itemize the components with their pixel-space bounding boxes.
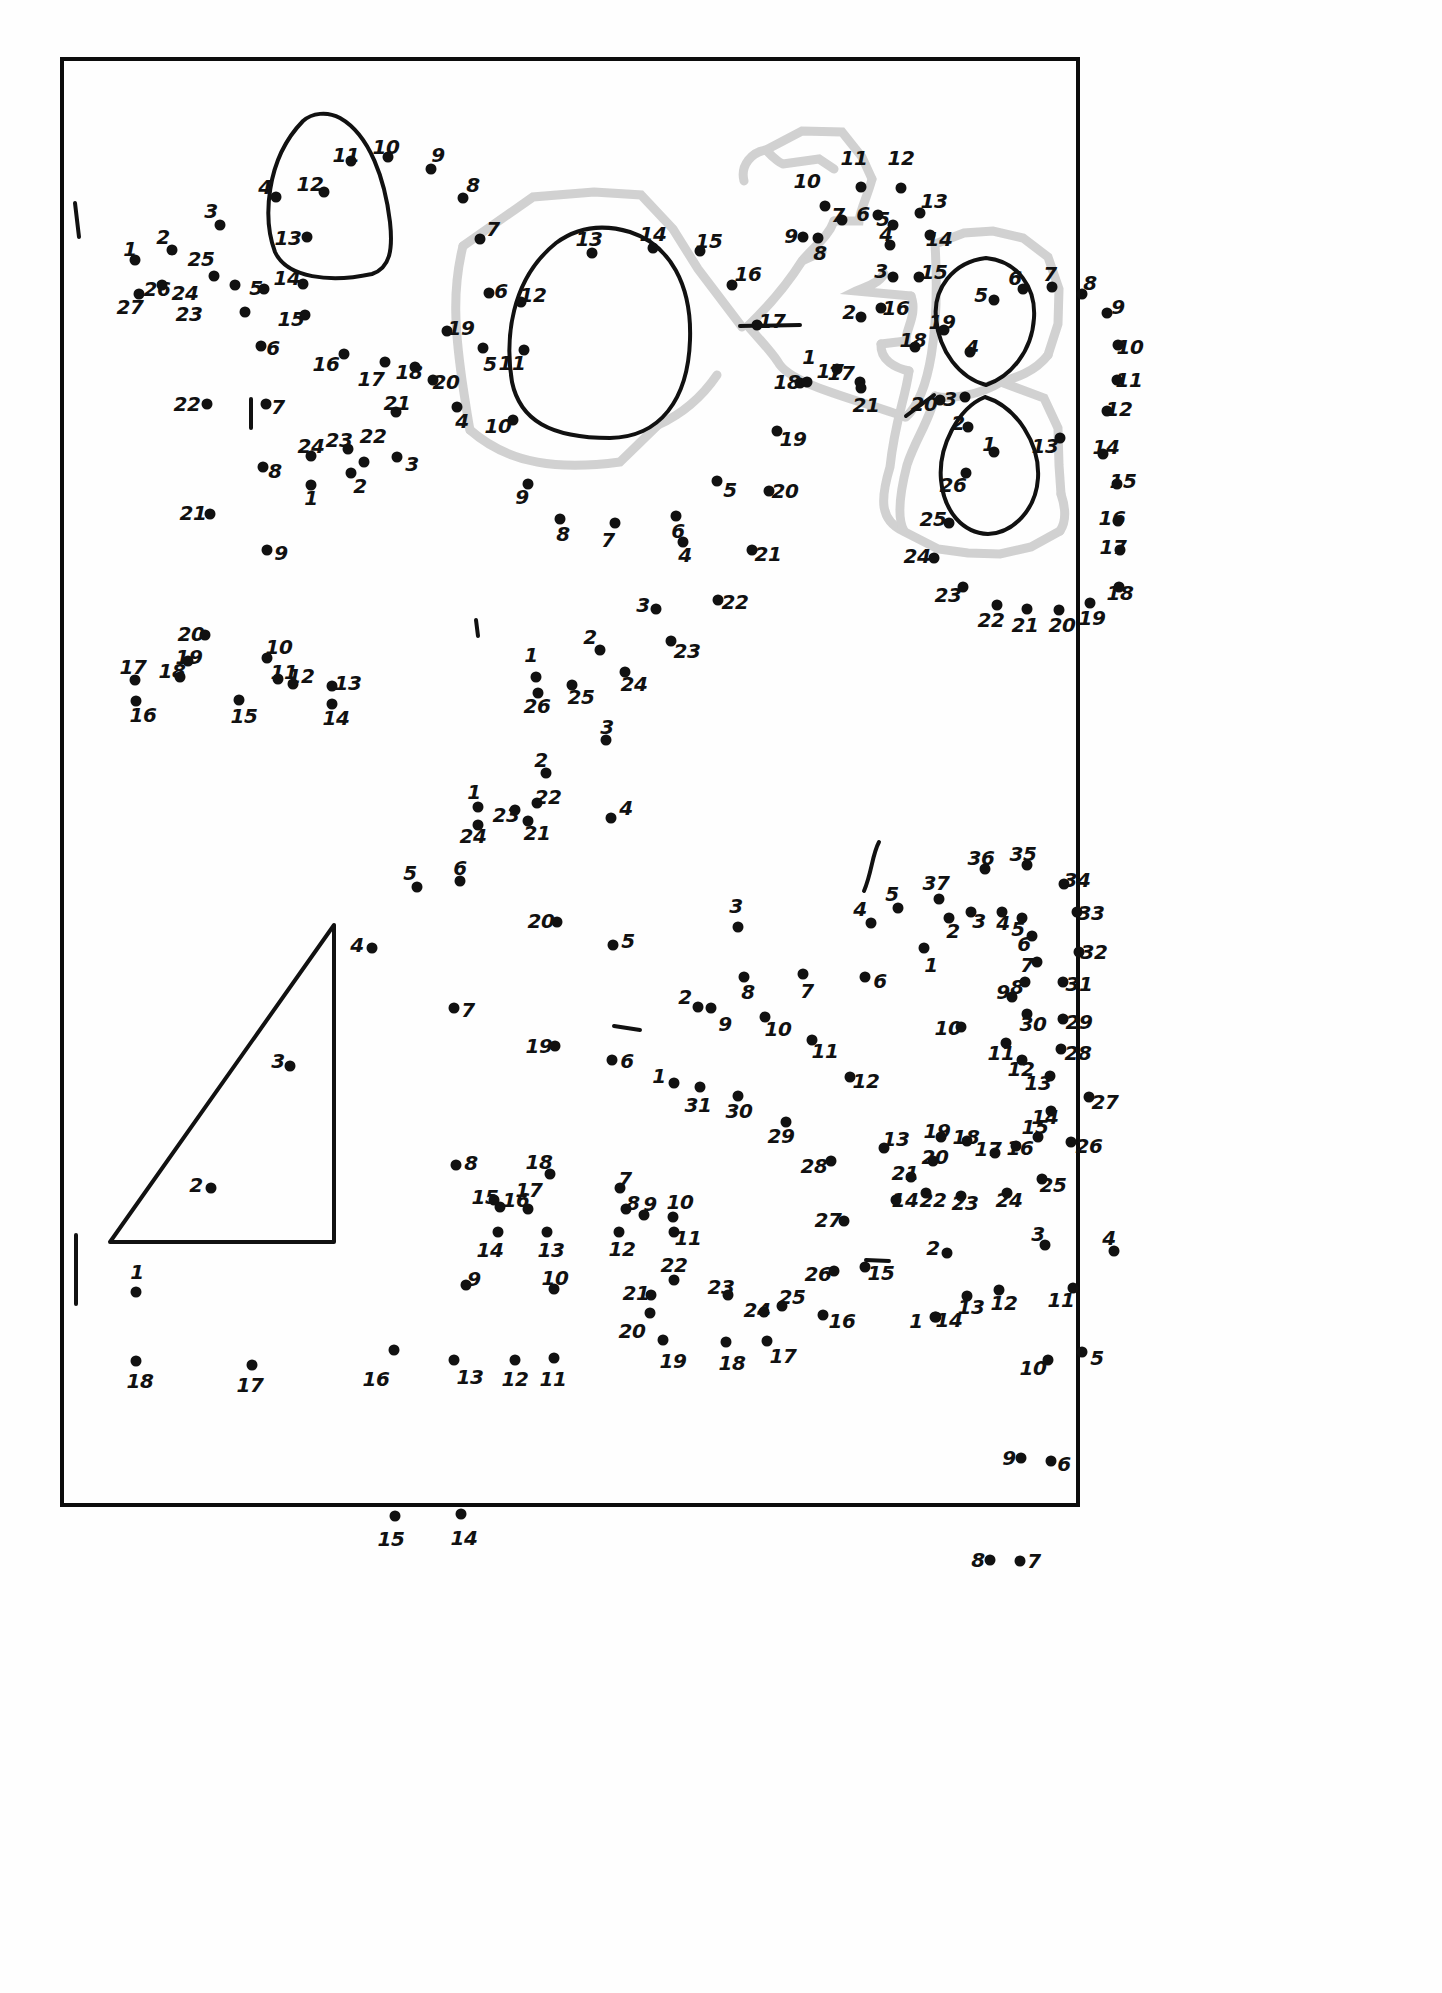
puzzle-dot-label: 17 — [817, 361, 844, 381]
puzzle-dot-label: 12 — [888, 148, 915, 168]
puzzle-dot-label: 23 — [952, 1193, 979, 1213]
puzzle-dot-label: 10 — [794, 171, 821, 191]
puzzle-dot-label: 15 — [696, 231, 723, 251]
puzzle-dot-label: 14 — [477, 1240, 504, 1260]
puzzle-dot — [712, 476, 723, 487]
puzzle-dot — [392, 452, 403, 463]
puzzle-dot — [258, 462, 269, 473]
puzzle-dot-label: 16 — [130, 705, 157, 725]
puzzle-dot-label: 1 — [982, 434, 995, 454]
puzzle-dot-label: 16 — [1099, 508, 1126, 528]
puzzle-dot-label: 15 — [921, 262, 948, 282]
puzzle-dot-label: 12 — [502, 1369, 529, 1389]
puzzle-dot-label: 28 — [1065, 1043, 1092, 1063]
puzzle-dot-label: 7 — [486, 219, 499, 239]
puzzle-dot-label: 26 — [805, 1264, 832, 1284]
puzzle-dot-label: 16 — [829, 1311, 856, 1331]
puzzle-dot-label: 3 — [636, 595, 649, 615]
puzzle-dot-label: 22 — [174, 394, 201, 414]
puzzle-dot-label: 16 — [503, 1190, 530, 1210]
puzzle-dot — [896, 183, 907, 194]
puzzle-dot-label: 2 — [189, 1175, 202, 1195]
puzzle-dot-label: 6 — [1057, 1454, 1070, 1474]
puzzle-dot-label: 8 — [813, 243, 826, 263]
puzzle-dot-label: 22 — [920, 1190, 947, 1210]
puzzle-dot-label: 30 — [726, 1101, 753, 1121]
puzzle-dot-label: 11 — [333, 145, 360, 165]
puzzle-dot-label: 18 — [396, 362, 423, 382]
puzzle-dot — [247, 1360, 258, 1371]
puzzle-dot-label: 19 — [1079, 608, 1106, 628]
puzzle-dot-label: 27 — [1092, 1092, 1119, 1112]
puzzle-dot — [820, 201, 831, 212]
puzzle-dot-label: 13 — [883, 1129, 910, 1149]
puzzle-dot-label: 9 — [718, 1014, 731, 1034]
puzzle-dot-label: 25 — [920, 509, 947, 529]
puzzle-dot-label: 24 — [744, 1300, 771, 1320]
puzzle-dot-label: 5 — [621, 931, 634, 951]
puzzle-dot — [262, 545, 273, 556]
puzzle-dot — [960, 392, 971, 403]
puzzle-dot-label: 35 — [1010, 844, 1037, 864]
puzzle-dot-label: 10 — [373, 137, 400, 157]
puzzle-dot-label: 7 — [831, 205, 844, 225]
puzzle-dot-label: 7 — [1043, 264, 1056, 284]
puzzle-dot-label: 22 — [978, 610, 1005, 630]
puzzle-dot-label: 12 — [288, 666, 315, 686]
puzzle-dot-label: 18 — [719, 1353, 746, 1373]
puzzle-dot-label: 2 — [946, 921, 959, 941]
puzzle-dot — [985, 1555, 996, 1566]
puzzle-dot — [549, 1353, 560, 1364]
puzzle-dot-label: 30 — [1020, 1014, 1047, 1034]
puzzle-dot-label: 9 — [1002, 1448, 1015, 1468]
puzzle-dot — [919, 943, 930, 954]
puzzle-dot-label: 7 — [601, 530, 614, 550]
puzzle-dot-label: 6 — [620, 1051, 633, 1071]
puzzle-dot-label: 24 — [298, 436, 325, 456]
puzzle-dot-label: 5 — [483, 354, 496, 374]
puzzle-dot — [389, 1345, 400, 1356]
puzzle-dot-label: 24 — [621, 674, 648, 694]
puzzle-dot-label: 24 — [996, 1190, 1023, 1210]
puzzle-dot-label: 16 — [313, 354, 340, 374]
puzzle-dot-label: 23 — [674, 641, 701, 661]
puzzle-dot-label: 15 — [1022, 1117, 1049, 1137]
puzzle-dot-label: 34 — [1064, 870, 1091, 890]
puzzle-dot-label: 2 — [678, 987, 691, 1007]
puzzle-dot-label: 4 — [619, 798, 632, 818]
puzzle-dot-label: 6 — [453, 858, 466, 878]
puzzle-dot — [989, 295, 1000, 306]
puzzle-dot — [451, 1160, 462, 1171]
puzzle-dot-label: 1 — [467, 782, 480, 802]
puzzle-dot-label: 12 — [1106, 399, 1133, 419]
puzzle-dot-label: 3 — [729, 896, 742, 916]
puzzle-dot-label: 1 — [802, 347, 815, 367]
puzzle-dot-label: 26 — [144, 279, 171, 299]
puzzle-dot — [380, 357, 391, 368]
puzzle-dot-label: 15 — [231, 706, 258, 726]
puzzle-dot-label: 32 — [1081, 942, 1108, 962]
puzzle-dot-label: 3 — [405, 454, 418, 474]
puzzle-dot-label: 22 — [661, 1255, 688, 1275]
puzzle-dot-label: 6 — [856, 204, 869, 224]
puzzle-dot-label: 6 — [1008, 268, 1021, 288]
puzzle-dot — [230, 280, 241, 291]
puzzle-dot-label: 13 — [921, 191, 948, 211]
puzzle-dot-label: 17 — [759, 311, 786, 331]
puzzle-dot-label: 12 — [520, 285, 547, 305]
puzzle-dot-label: 4 — [678, 545, 691, 565]
puzzle-dot-label: 18 — [1107, 583, 1134, 603]
puzzle-dot — [733, 922, 744, 933]
puzzle-dot-label: 14 — [274, 268, 301, 288]
puzzle-dot-label: 4 — [258, 177, 271, 197]
puzzle-dot-label: 4 — [879, 224, 892, 244]
puzzle-dot — [449, 1355, 460, 1366]
puzzle-dot-label: 15 — [278, 309, 305, 329]
puzzle-dot-label: 17 — [120, 657, 147, 677]
puzzle-dot-label: 4 — [350, 935, 363, 955]
puzzle-dot-label: 8 — [466, 175, 479, 195]
puzzle-dot — [1015, 1556, 1026, 1567]
puzzle-dot-label: 12 — [609, 1239, 636, 1259]
puzzle-dot-label: 10 — [667, 1192, 694, 1212]
puzzle-dot-label: 3 — [972, 911, 985, 931]
